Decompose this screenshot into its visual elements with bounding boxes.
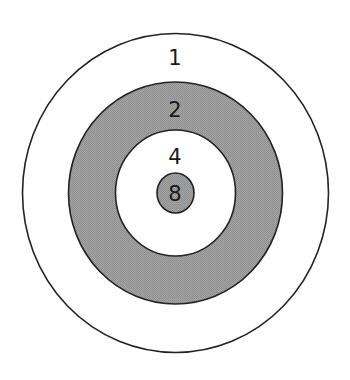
ring-label-8: 8 xyxy=(168,182,181,206)
target-diagram: 1 2 4 8 xyxy=(0,0,350,380)
ring-label-2: 2 xyxy=(168,98,181,122)
ring-label-4: 4 xyxy=(168,145,181,169)
ring-label-1: 1 xyxy=(168,46,181,70)
